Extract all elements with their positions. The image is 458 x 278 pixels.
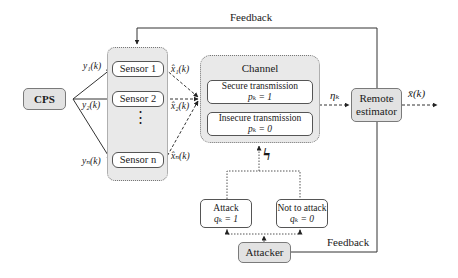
attack-value: qₖ = 1 (214, 214, 238, 225)
channel-title: Channel (242, 62, 279, 75)
sensor-2-label: Sensor 2 (120, 93, 156, 105)
remote-estimator-line2: estimator (356, 105, 397, 118)
attack-box: Attack qₖ = 1 (200, 199, 252, 228)
estimate-output-label: x̄(k) (408, 88, 425, 99)
sensor-n-input-label: yₙ(k) (82, 157, 101, 167)
lightning-icon: ϟ (263, 147, 270, 163)
remote-estimator-box: Remote estimator (351, 88, 402, 122)
sensor-1-label: Sensor 1 (120, 63, 156, 75)
secure-transmission-label: Secure transmission (222, 81, 298, 92)
insecure-transmission-value: pₖ = 0 (248, 124, 272, 135)
no-attack-label: Not to attack (277, 203, 326, 214)
no-attack-value: qₖ = 0 (290, 214, 314, 225)
sensor-1-box: Sensor 1 (112, 61, 164, 77)
remote-estimator-line1: Remote (359, 92, 393, 105)
sensor-ellipsis: ⋮ (133, 111, 148, 123)
sensor-n-box: Sensor n (112, 152, 164, 168)
feedback-bottom-label: Feedback (327, 237, 369, 248)
attacker-label: Attacker (246, 246, 284, 259)
insecure-transmission-label: Insecure transmission (219, 113, 302, 124)
eta-label: ηₖ (330, 90, 339, 101)
sensor-2-box: Sensor 2 (112, 91, 164, 107)
attacker-box: Attacker (238, 242, 291, 263)
cps-label: CPS (34, 93, 55, 106)
no-attack-box: Not to attack qₖ = 0 (276, 199, 328, 228)
sensor-2-output-label: x̂₂(k) (171, 102, 189, 112)
insecure-transmission-box: Insecure transmission pₖ = 0 (207, 112, 313, 136)
cps-box: CPS (23, 88, 66, 110)
sensor-2-input-label: y₂(k) (82, 101, 100, 111)
secure-transmission-box: Secure transmission pₖ = 1 (207, 80, 313, 104)
secure-transmission-value: pₖ = 1 (248, 92, 272, 103)
sensor-n-label: Sensor n (120, 154, 156, 166)
sensor-1-input-label: y₁(k) (83, 62, 101, 72)
sensor-1-output-label: x̂₁(k) (171, 65, 189, 75)
feedback-top-label: Feedback (230, 12, 272, 23)
sensor-n-output-label: x̂ₙ(k) (171, 152, 190, 162)
attack-label: Attack (213, 203, 238, 214)
